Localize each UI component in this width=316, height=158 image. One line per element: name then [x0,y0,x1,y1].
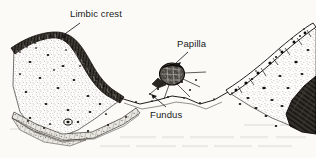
histology-drawing [0,0,316,158]
papilla-body [149,63,206,99]
leader-line-papilla-icon [176,52,188,63]
histology-figure: Limbic crest Papilla Fundus [0,0,316,158]
leader-line-limbic-crest-icon [62,23,80,36]
label-papilla: Papilla [177,39,206,49]
label-fundus: Fundus [150,110,182,120]
label-limbic-crest: Limbic crest [70,9,122,19]
fundus-junction [120,92,228,109]
